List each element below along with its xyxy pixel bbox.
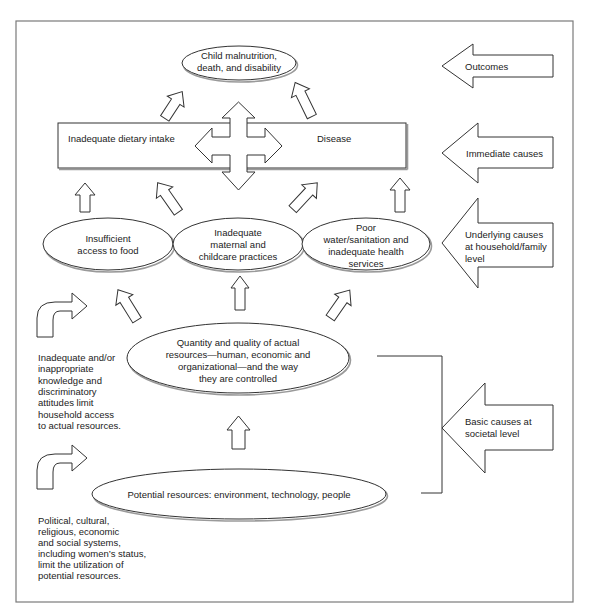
- outcome-node-line-2: death, and disability: [197, 62, 281, 73]
- water-node-line-3: inadequate health: [328, 246, 404, 257]
- potential-resources-node: Potential resources: environment, techno…: [92, 469, 388, 521]
- water-node-line-2: water/sanitation and: [322, 234, 408, 245]
- care-node-line-3: childcare practices: [199, 251, 278, 262]
- food-node-line-1: Insufficient: [85, 233, 131, 244]
- underlying-node-water-health: Poor water/sanitation and inadequate hea…: [302, 218, 432, 272]
- level-basic-line-2: societal level: [465, 428, 519, 439]
- note-2-line-3: and social systems,: [38, 537, 121, 548]
- note-1-line-6: household access: [38, 409, 114, 420]
- level-underlying-line-2: at household/family: [465, 241, 547, 252]
- note-2-line-6: potential resources.: [38, 570, 121, 581]
- note-2-line-5: limit the utilization of: [38, 559, 124, 570]
- note-1-line-2: inappropriate: [38, 363, 93, 374]
- food-node-line-2: access to food: [77, 245, 138, 256]
- care-node-line-1: Inadequate: [214, 227, 262, 238]
- note-1-line-7: to actual resources.: [38, 420, 121, 431]
- level-outcomes-label: Outcomes: [465, 61, 509, 72]
- potential-resources-label: Potential resources: environment, techno…: [127, 489, 350, 500]
- underlying-node-food: Insufficient access to food: [43, 218, 175, 272]
- level-underlying-line-1: Underlying causes: [465, 229, 543, 240]
- actual-resources-line-3: organizational—and the way: [178, 361, 298, 372]
- actual-resources-line-1: Quantity and quality of actual: [177, 337, 300, 348]
- note-2-line-4: including women’s status,: [38, 548, 146, 559]
- water-node-line-4: services: [349, 258, 384, 269]
- dietary-intake-label: Inadequate dietary intake: [68, 133, 175, 144]
- causal-framework-diagram: Child malnutrition, death, and disabilit…: [0, 0, 592, 614]
- disease-label: Disease: [317, 133, 351, 144]
- level-immediate-label: Immediate causes: [466, 148, 543, 159]
- underlying-node-care: Inadequate maternal and childcare practi…: [173, 218, 305, 272]
- actual-resources-line-4: they are controlled: [199, 373, 277, 384]
- note-1-line-1: Inadequate and/or: [38, 352, 115, 363]
- actual-resources-line-2: resources—human, economic and: [166, 349, 311, 360]
- level-basic-line-1: Basic causes at: [465, 416, 532, 427]
- water-node-line-1: Poor: [356, 222, 376, 233]
- outcome-node-line-1: Child malnutrition,: [201, 50, 277, 61]
- note-1-line-4: discriminatory: [38, 386, 97, 397]
- care-node-line-2: maternal and: [210, 239, 265, 250]
- note-1-line-5: attitudes limit: [38, 397, 94, 408]
- note-1-line-3: knowledge and: [38, 375, 102, 386]
- note-2-line-1: Political, cultural,: [38, 515, 109, 526]
- level-underlying-line-3: level: [465, 253, 485, 264]
- note-2-line-2: religious, economic: [38, 526, 120, 537]
- outcome-node: Child malnutrition, death, and disabilit…: [182, 46, 298, 82]
